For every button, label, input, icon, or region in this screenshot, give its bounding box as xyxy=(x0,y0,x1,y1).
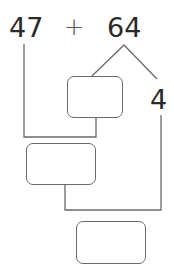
answer-box-partial-sum[interactable] xyxy=(26,143,96,185)
plus-operator: + xyxy=(64,15,84,39)
answer-box-split-remainder[interactable] xyxy=(67,76,123,118)
left-operand: 47 xyxy=(9,14,43,41)
split-part: 4 xyxy=(150,86,167,113)
right-operand: 64 xyxy=(107,14,141,41)
answer-box-final-sum[interactable] xyxy=(76,221,146,264)
